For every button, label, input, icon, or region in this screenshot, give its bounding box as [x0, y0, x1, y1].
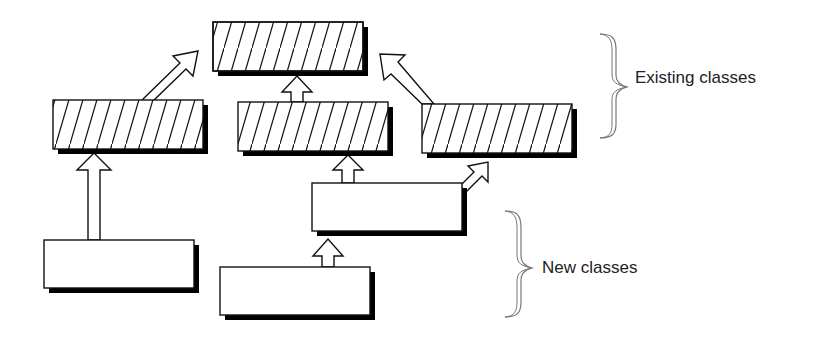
class-box-new-left[interactable]	[44, 240, 199, 293]
class-box-base[interactable]	[213, 22, 368, 76]
arrow-new-left-to-existing-left	[77, 153, 111, 240]
class-box-existing-center[interactable]	[238, 102, 393, 156]
new-classes-label: New classes	[542, 258, 637, 278]
arrow-existing-left-to-base	[141, 51, 198, 101]
arrow-existing-right-to-base	[380, 54, 434, 104]
arrow-new-mid-to-existing-right	[460, 162, 488, 192]
class-box-new-mid[interactable]	[312, 183, 467, 236]
brace-existing-icon	[600, 34, 627, 138]
class-box-existing-right[interactable]	[422, 104, 577, 158]
class-box-new-bottom[interactable]	[220, 267, 375, 320]
arrow-existing-center-to-base	[282, 76, 312, 102]
arrow-new-bottom-to-new-mid	[313, 239, 343, 267]
arrow-new-mid-to-existing-center	[333, 155, 363, 183]
existing-classes-label: Existing classes	[635, 68, 756, 88]
class-box-existing-left[interactable]	[53, 100, 208, 154]
brace-new-icon	[505, 211, 532, 317]
class-hierarchy-diagram	[0, 0, 824, 344]
